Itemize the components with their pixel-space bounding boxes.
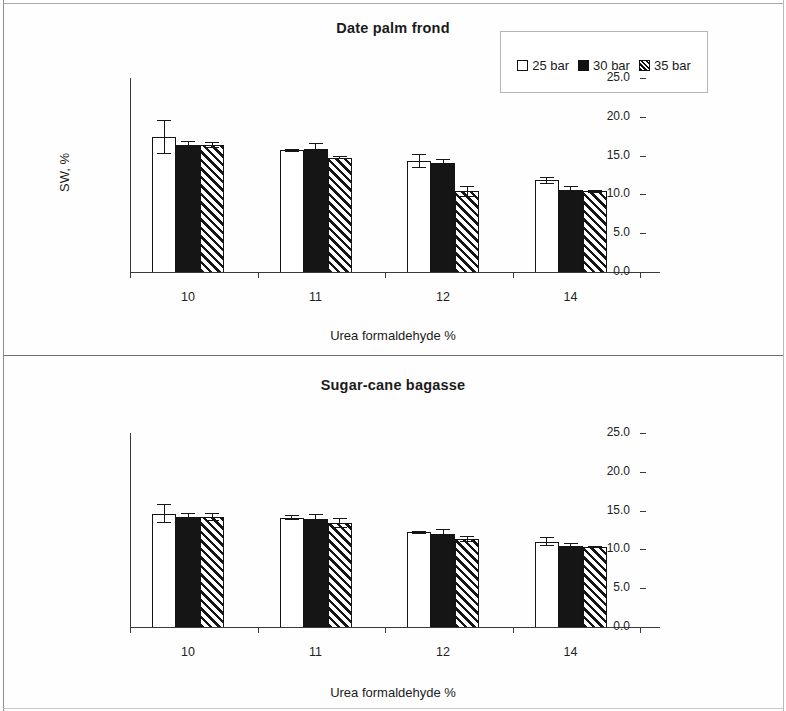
black-square-icon xyxy=(578,60,589,71)
error-bar xyxy=(564,543,578,549)
error-bar-cap xyxy=(564,186,578,187)
error-bar-cap xyxy=(460,536,474,537)
error-bar xyxy=(181,513,195,521)
chart-panel-date-palm-frond: Date palm frond 25 bar 30 bar 35 bar SW,… xyxy=(0,0,786,355)
y-tick-mark xyxy=(640,472,646,473)
y-tick-label: 20.0 xyxy=(607,109,630,123)
legend-item-25-bar: 25 bar xyxy=(517,58,569,73)
error-bar-cap xyxy=(412,167,426,168)
error-bar-stem xyxy=(419,154,420,168)
bar xyxy=(176,517,200,627)
error-bar-cap xyxy=(540,183,554,184)
error-bar xyxy=(205,513,219,521)
y-tick-mark xyxy=(640,433,646,434)
y-tick-label: 0.0 xyxy=(613,619,630,633)
x-tick-mark xyxy=(385,272,386,278)
legend-item-35-bar: 35 bar xyxy=(639,58,691,73)
error-bar-cap xyxy=(285,151,299,152)
x-axis-title-bottom: Urea formaldehyde % xyxy=(0,685,786,700)
y-tick-label: 10.0 xyxy=(607,186,630,200)
white-square-icon xyxy=(517,60,528,71)
bar xyxy=(407,532,431,627)
error-bar-cap xyxy=(564,543,578,544)
error-bar-cap xyxy=(157,153,171,154)
error-bar-cap xyxy=(588,547,602,548)
error-bar xyxy=(588,546,602,548)
chart-title-bottom: Sugar-cane bagasse xyxy=(0,377,786,393)
error-bar xyxy=(309,143,323,154)
x-tick-mark xyxy=(640,272,641,278)
x-tick-label: 10 xyxy=(181,290,195,304)
y-axis-line xyxy=(130,433,131,627)
y-tick-label: 15.0 xyxy=(607,503,630,517)
bar xyxy=(200,517,224,627)
x-tick-label: 11 xyxy=(309,290,322,304)
error-bar-cap xyxy=(157,522,171,523)
error-bar xyxy=(157,504,171,523)
error-bar xyxy=(285,149,299,152)
error-bar-cap xyxy=(181,520,195,521)
error-bar xyxy=(412,154,426,168)
bar xyxy=(407,161,431,272)
y-tick-label: 0.0 xyxy=(613,264,630,278)
error-bar-cap xyxy=(412,533,426,534)
error-bar-cap xyxy=(540,545,554,546)
x-tick-label: 12 xyxy=(436,645,450,659)
x-tick-mark xyxy=(258,272,259,278)
error-bar xyxy=(205,142,219,148)
x-tick-label: 14 xyxy=(564,645,578,659)
error-bar-cap xyxy=(460,186,474,187)
error-bar xyxy=(460,536,474,542)
bar xyxy=(304,519,328,627)
error-bar xyxy=(540,537,554,546)
error-bar-stem xyxy=(164,120,165,154)
y-tick-label: 25.0 xyxy=(607,425,630,439)
bar xyxy=(304,149,328,272)
error-bar-cap xyxy=(309,153,323,154)
bar xyxy=(535,542,559,627)
y-tick-mark xyxy=(640,117,646,118)
y-tick-mark xyxy=(640,588,646,589)
error-bar-cap xyxy=(181,141,195,142)
y-axis-line xyxy=(130,78,131,272)
y-tick-mark xyxy=(640,194,646,195)
error-bar-stem xyxy=(164,504,165,523)
error-bar-cap xyxy=(285,515,299,516)
error-bar xyxy=(540,177,554,185)
error-bar-cap xyxy=(588,190,602,191)
bar xyxy=(535,180,559,272)
bar xyxy=(328,158,352,272)
x-tick-mark xyxy=(513,627,514,633)
bar xyxy=(200,145,224,272)
x-tick-mark xyxy=(640,627,641,633)
x-tick-mark xyxy=(385,627,386,633)
error-bar-cap xyxy=(205,520,219,521)
bar xyxy=(583,547,607,627)
error-bar-cap xyxy=(460,541,474,542)
error-bar xyxy=(309,514,323,523)
y-axis-title-top: SW, % xyxy=(57,143,72,203)
plot-area-top: 0.05.010.015.020.025.010111214 xyxy=(130,78,640,272)
y-tick-mark xyxy=(640,156,646,157)
bar xyxy=(559,190,583,272)
bar xyxy=(431,163,455,272)
error-bar-cap xyxy=(309,514,323,515)
y-tick-mark xyxy=(640,78,646,79)
x-axis-line xyxy=(130,272,660,273)
x-tick-label: 14 xyxy=(564,290,578,304)
x-tick-mark xyxy=(258,627,259,633)
x-tick-label: 11 xyxy=(309,645,322,659)
error-bar-cap xyxy=(436,529,450,530)
error-bar-cap xyxy=(205,513,219,514)
x-axis-title-top: Urea formaldehyde % xyxy=(0,328,786,343)
bar xyxy=(176,145,200,272)
error-bar-cap xyxy=(540,177,554,178)
error-bar-cap xyxy=(157,504,171,505)
error-bar-cap xyxy=(181,513,195,514)
error-bar xyxy=(564,186,578,194)
y-tick-mark xyxy=(640,549,646,550)
error-bar-cap xyxy=(309,523,323,524)
error-bar-cap xyxy=(333,156,347,157)
bar xyxy=(152,514,176,627)
x-tick-mark xyxy=(130,627,131,633)
